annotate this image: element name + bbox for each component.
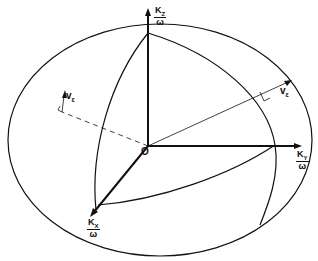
kz-axis-label: KZ ω <box>154 6 166 27</box>
meridian-xz-arc <box>95 33 148 210</box>
diagram-canvas <box>0 0 318 261</box>
origin-label: O <box>141 147 149 157</box>
ray-left-stem <box>62 96 64 112</box>
perpendicular-marker-left <box>58 106 62 112</box>
ray-vector-left-label: vε <box>66 91 75 103</box>
ray-vector-right-label: vε <box>280 86 289 98</box>
ray-vector-right <box>148 82 288 146</box>
ky-axis-label: KY ω <box>296 150 309 171</box>
kx-axis-label: KX ω <box>87 218 100 239</box>
meridian-yz-arc <box>148 33 276 225</box>
ellipsoid-outline <box>8 24 312 256</box>
kz-arrowhead <box>145 8 151 16</box>
perpendicular-marker <box>260 92 270 101</box>
